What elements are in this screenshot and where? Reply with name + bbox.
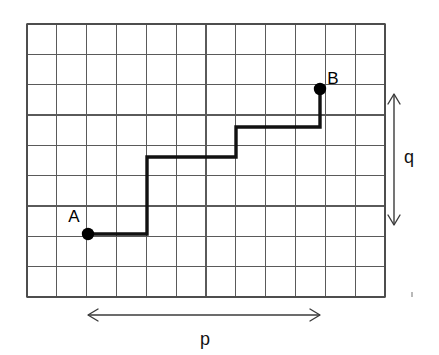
scan-speck [411,292,413,297]
dimension-q-label: q [404,147,414,167]
lattice-grid-figure: A B p q [0,0,439,355]
point-a-label: A [68,207,80,226]
point-b-label: B [327,69,338,88]
figure-background [0,0,439,355]
figure-canvas: A B p q [0,0,439,355]
point-a-dot [82,228,94,240]
point-b-dot [314,83,326,95]
dimension-p-label: p [200,329,210,349]
